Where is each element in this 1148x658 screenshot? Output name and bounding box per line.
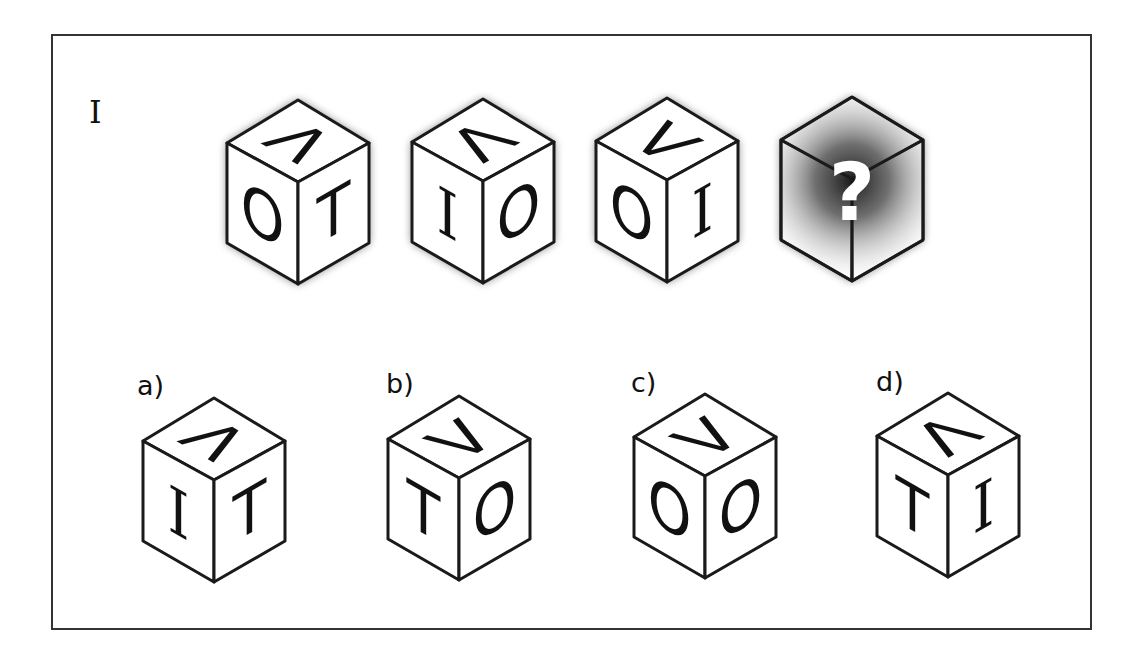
svg-text:I: I	[973, 463, 995, 550]
option-cube-1[interactable]: ITΛ	[143, 398, 285, 582]
sequence-cube-4: ?	[747, 76, 957, 286]
left-face-letter: I	[168, 470, 190, 557]
question-mark-icon: ?	[829, 146, 875, 239]
sequence-cube-3: OIΛ	[596, 98, 738, 282]
sequence-cube-1: OTΛ	[227, 100, 369, 284]
sequence-cube-2: IOΛ	[412, 99, 554, 283]
svg-text:I: I	[168, 470, 190, 557]
option-cube-4[interactable]: TIΛ	[877, 393, 1019, 577]
option-cube-2[interactable]: TOΛ	[388, 396, 530, 580]
right-face-letter: I	[973, 463, 995, 550]
svg-text:I: I	[692, 168, 714, 255]
cube-stage: OTΛIOΛOIΛ?ITΛTOΛOOΛTIΛ	[0, 0, 1148, 658]
svg-text:I: I	[437, 171, 459, 258]
right-face-letter: I	[692, 168, 714, 255]
left-face-letter: I	[437, 171, 459, 258]
option-cube-3[interactable]: OOΛ	[634, 394, 776, 578]
